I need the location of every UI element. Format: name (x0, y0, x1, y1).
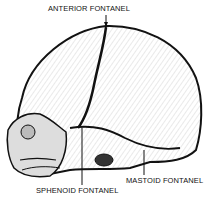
skull-diagram: ANTERIOR FONTANEL SPHENOID FONTANEL MAST… (0, 0, 209, 197)
label-mastoid-fontanel: MASTOID FONTANEL (126, 176, 203, 185)
label-anterior-fontanel: ANTERIOR FONTANEL (48, 4, 130, 13)
label-sphenoid-fontanel: SPHENOID FONTANEL (36, 186, 118, 195)
skull-illustration (0, 0, 209, 197)
